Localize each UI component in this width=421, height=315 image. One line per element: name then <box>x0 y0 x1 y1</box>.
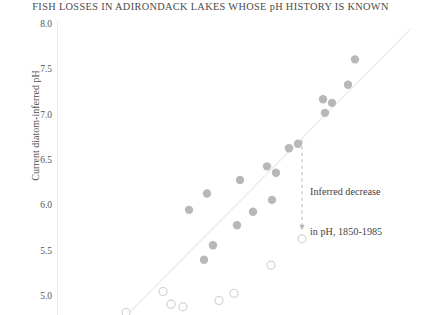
data-point <box>200 256 208 264</box>
data-point <box>272 168 280 176</box>
data-point <box>285 144 293 152</box>
y-tick-label: 5.0 <box>18 291 52 301</box>
y-tick-label: 5.5 <box>18 246 52 256</box>
annotation-arrow-head <box>299 225 304 231</box>
data-point <box>319 95 327 103</box>
inferred-decrease-annotation: Inferred decrease in pH, 1850-1985 <box>310 158 382 266</box>
data-point <box>122 308 130 315</box>
data-point <box>230 289 238 297</box>
y-tick-label: 7.5 <box>18 64 52 74</box>
annotation-line-1: Inferred decrease <box>310 185 382 199</box>
data-point <box>321 109 329 117</box>
y-tick-label: 6.0 <box>18 200 52 210</box>
data-point <box>298 235 306 243</box>
data-point <box>209 241 217 249</box>
y-tick-label: 7.0 <box>18 110 52 120</box>
annotation-line-2: in pH, 1850-1985 <box>310 225 382 239</box>
data-point <box>267 261 275 269</box>
data-point <box>268 196 276 204</box>
data-point <box>249 207 257 215</box>
data-point <box>233 221 241 229</box>
y-axis-tick-labels: 8.07.57.06.56.05.55.0 <box>12 0 52 315</box>
y-tick-label: 6.5 <box>18 155 52 165</box>
data-point <box>215 297 223 305</box>
data-point <box>236 176 244 184</box>
data-point <box>203 189 211 197</box>
data-point <box>263 162 271 170</box>
data-point <box>159 287 167 295</box>
data-point <box>351 55 359 63</box>
data-point <box>328 99 336 107</box>
y-tick-label: 8.0 <box>18 19 52 29</box>
data-point <box>344 81 352 89</box>
data-point <box>179 303 187 311</box>
data-point <box>185 206 193 214</box>
chart-title: FISH LOSSES IN ADIRONDACK LAKES WHOSE pH… <box>0 1 421 12</box>
chart-figure: FISH LOSSES IN ADIRONDACK LAKES WHOSE pH… <box>0 0 421 315</box>
data-point <box>294 139 302 147</box>
data-point <box>167 300 175 308</box>
